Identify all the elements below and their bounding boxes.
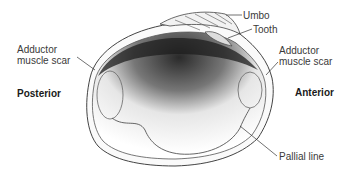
leader-adductor-left	[77, 57, 95, 70]
label-umbo: Umbo	[243, 10, 270, 21]
label-adductor-left-line2: muscle scar	[17, 55, 70, 66]
label-posterior: Posterior	[17, 88, 61, 99]
label-tooth: Tooth	[253, 24, 277, 35]
label-pallial-line: Pallial line	[279, 151, 324, 162]
label-adductor-right-line1: Adductor	[279, 45, 319, 56]
label-adductor-left-line1: Adductor	[17, 44, 57, 55]
label-anterior: Anterior	[295, 87, 334, 98]
label-adductor-right-line2: muscle scar	[279, 56, 332, 67]
